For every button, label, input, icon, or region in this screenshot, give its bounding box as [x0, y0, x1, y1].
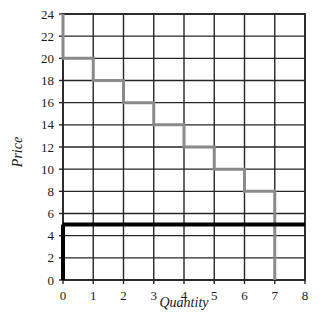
x-tick-label: 1: [90, 288, 97, 303]
x-tick-label: 6: [241, 288, 248, 303]
y-tick-label: 2: [48, 250, 55, 265]
y-tick-label: 10: [41, 162, 54, 177]
y-tick-label: 14: [41, 117, 55, 132]
y-tick-label: 12: [41, 140, 54, 155]
y-axis-title: Price: [10, 137, 25, 168]
x-tick-label: 8: [302, 288, 309, 303]
y-tick-label: 6: [48, 206, 55, 221]
step-demand-chart: 024681012141618202224 012345678 Price Qu…: [0, 0, 326, 319]
y-tick-label: 22: [41, 29, 54, 44]
chart-background: [0, 0, 326, 319]
y-tick-label: 18: [41, 73, 54, 88]
x-tick-label: 5: [211, 288, 218, 303]
y-tick-label: 16: [41, 95, 55, 110]
y-tick-label: 20: [41, 51, 54, 66]
x-tick-label: 0: [60, 288, 67, 303]
x-tick-label: 3: [151, 288, 158, 303]
y-tick-label: 8: [48, 184, 55, 199]
x-axis-title: Quantity: [160, 295, 210, 310]
chart-figure: 024681012141618202224 012345678 Price Qu…: [0, 0, 326, 319]
y-tick-label: 24: [41, 7, 55, 22]
y-tick-label: 4: [48, 228, 55, 243]
x-tick-label: 7: [272, 288, 279, 303]
y-tick-label: 0: [48, 273, 55, 288]
x-tick-label: 2: [120, 288, 127, 303]
